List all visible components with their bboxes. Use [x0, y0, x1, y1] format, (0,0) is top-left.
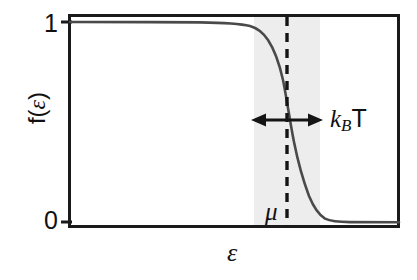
y-axis-label-prefix: f(: [23, 109, 50, 124]
y-axis-label-epsilon: ε: [24, 100, 50, 109]
x-axis-label: ε: [197, 240, 267, 266]
fermi-dirac-figure: 1 0 f(ε) ε μ kBT: [0, 0, 417, 280]
mu-label: μ: [265, 199, 278, 224]
y-axis-label: f(ε): [25, 63, 49, 153]
y-axis-label-suffix: ): [23, 92, 50, 100]
kbt-label-t: T: [352, 104, 367, 132]
kbt-label: kBT: [330, 106, 367, 134]
y-tick-label-0: 0: [44, 208, 58, 233]
plot-overlay: [0, 0, 417, 280]
y-tick-label-1: 1: [44, 11, 58, 36]
kbt-label-k: k: [330, 105, 341, 132]
kbt-label-subscript-b: B: [341, 116, 351, 135]
